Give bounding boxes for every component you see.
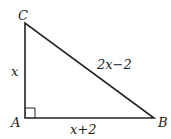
vertex-label-a: A [10, 115, 20, 130]
vertex-label-c: C [18, 8, 28, 23]
side-label-ac: x [11, 64, 19, 79]
triangle-abc [25, 23, 154, 118]
side-label-bc: 2x−2 [96, 57, 132, 72]
triangle-diagram: C A B x x+2 2x−2 [0, 0, 171, 139]
right-angle-marker [25, 108, 35, 118]
side-label-ab: x+2 [70, 122, 97, 137]
vertex-label-b: B [157, 115, 168, 130]
